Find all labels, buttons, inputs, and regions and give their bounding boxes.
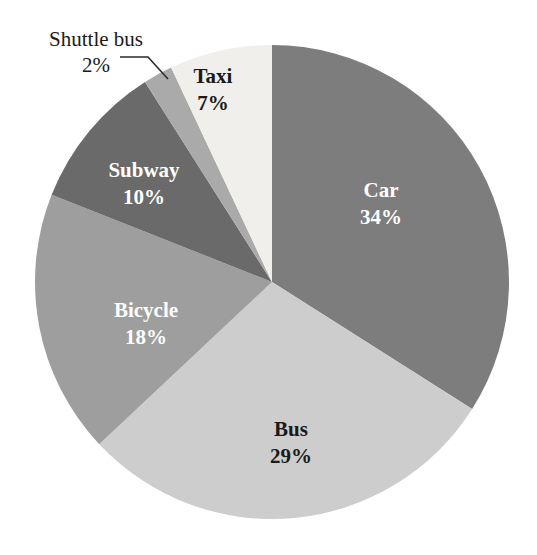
subway-slice-label: Subway [108, 158, 180, 182]
car-slice-label: Car [364, 178, 399, 202]
pie-chart: Car34%Bus29%Bicycle18%Subway10%Shuttle b… [0, 0, 537, 555]
subway-slice-percent: 10% [123, 185, 165, 209]
bicycle-slice-label: Bicycle [114, 298, 178, 322]
taxi-slice-label: Taxi [194, 64, 233, 88]
pie-chart-svg: Car34%Bus29%Bicycle18%Subway10%Shuttle b… [0, 0, 537, 555]
shuttle-bus-slice-percent: 2% [82, 53, 110, 77]
bus-slice-label: Bus [274, 417, 308, 441]
bicycle-slice-percent: 18% [125, 325, 167, 349]
shuttle-bus-slice-label: Shuttle bus [49, 27, 143, 51]
taxi-slice-percent: 7% [197, 91, 229, 115]
car-slice-percent: 34% [360, 205, 402, 229]
bus-slice-percent: 29% [270, 444, 312, 468]
